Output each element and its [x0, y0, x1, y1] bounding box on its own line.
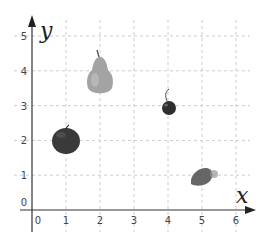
fruit-coordinate-plot: 0123456012345 x y [0, 0, 270, 244]
x-tick-label: 1 [63, 215, 69, 226]
y-tick-label: 0 [21, 197, 27, 208]
apple-icon [52, 125, 80, 154]
y-tick-label: 4 [21, 66, 27, 77]
x-tick-label: 5 [199, 215, 205, 226]
tick-labels: 0123456012345 [21, 31, 239, 226]
x-axis-label: x [236, 183, 249, 208]
y-tick-label: 1 [21, 170, 27, 181]
x-tick-label: 2 [97, 215, 103, 226]
strawberry-icon [191, 168, 218, 186]
cherry-icon [162, 89, 176, 115]
grid-lines [14, 20, 250, 232]
y-axis-arrow-icon [28, 15, 36, 27]
y-tick-label: 2 [21, 135, 27, 146]
x-tick-label: 3 [131, 215, 137, 226]
y-tick-label: 5 [21, 31, 27, 42]
x-tick-label: 4 [165, 215, 171, 226]
y-tick-label: 3 [21, 101, 27, 112]
x-tick-label: 6 [233, 215, 239, 226]
x-tick-label: 0 [35, 215, 41, 226]
axes [20, 15, 256, 232]
y-axis-label: y [39, 18, 53, 43]
